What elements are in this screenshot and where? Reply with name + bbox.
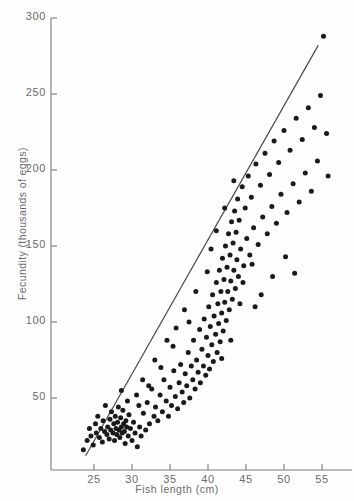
data-point — [258, 183, 263, 188]
data-point — [130, 438, 135, 443]
data-point — [208, 324, 213, 329]
data-point — [87, 426, 92, 431]
data-point — [209, 342, 214, 347]
data-point — [253, 304, 258, 309]
data-point — [217, 268, 222, 273]
data-point — [240, 184, 245, 189]
data-point — [187, 320, 192, 325]
data-point — [161, 377, 166, 382]
data-point — [113, 414, 118, 419]
data-point — [117, 435, 122, 440]
data-point — [303, 171, 308, 176]
data-point — [206, 353, 211, 358]
x-axis-ticks — [94, 464, 322, 470]
data-point — [315, 158, 320, 163]
data-point — [155, 418, 160, 423]
data-point — [94, 430, 99, 435]
data-point — [256, 242, 261, 247]
data-point — [193, 386, 198, 391]
data-point — [263, 151, 268, 156]
data-point — [177, 380, 182, 385]
data-point — [174, 326, 179, 331]
data-point — [197, 327, 202, 332]
data-point — [143, 427, 148, 432]
data-point — [93, 421, 98, 426]
data-point — [285, 210, 290, 215]
data-point — [231, 178, 236, 183]
data-point — [241, 263, 246, 268]
axis-lines — [51, 18, 352, 470]
data-point — [222, 300, 227, 305]
data-point — [223, 244, 228, 249]
data-point — [237, 218, 242, 223]
data-point — [265, 231, 270, 236]
data-point — [326, 174, 331, 179]
data-point — [233, 286, 238, 291]
data-point — [103, 403, 108, 408]
data-point — [140, 377, 145, 382]
data-point — [227, 307, 232, 312]
data-point — [180, 389, 185, 394]
data-point — [209, 247, 214, 252]
data-point — [175, 406, 180, 411]
data-point — [203, 373, 208, 378]
data-point — [126, 434, 131, 439]
data-point — [215, 350, 220, 355]
data-point — [294, 116, 299, 121]
data-point — [198, 380, 203, 385]
data-point — [206, 304, 211, 309]
data-point — [235, 196, 240, 201]
data-point — [135, 444, 140, 449]
data-point — [229, 219, 234, 224]
data-point — [133, 430, 138, 435]
data-point — [201, 364, 206, 369]
data-point — [312, 125, 317, 130]
data-point — [101, 418, 106, 423]
data-point — [196, 370, 201, 375]
data-point — [246, 174, 251, 179]
data-point — [122, 429, 127, 434]
data-point — [164, 338, 169, 343]
data-point — [270, 274, 275, 279]
data-point — [244, 236, 249, 241]
data-point — [291, 181, 296, 186]
data-point — [112, 438, 117, 443]
data-point — [115, 420, 120, 425]
data-point — [136, 403, 141, 408]
data-point — [178, 362, 183, 367]
data-point — [183, 371, 188, 376]
data-point — [247, 253, 252, 258]
data-point — [214, 228, 219, 233]
data-point — [152, 414, 157, 419]
data-point — [202, 316, 207, 321]
y-axis-title: Fecundity (thousands of eggs) — [16, 147, 28, 300]
data-point — [134, 392, 139, 397]
data-point — [222, 206, 227, 211]
data-point — [216, 321, 221, 326]
data-point — [88, 434, 93, 439]
data-point — [119, 388, 124, 393]
data-point — [238, 247, 243, 252]
data-point — [181, 400, 186, 405]
data-point — [204, 335, 209, 340]
data-point — [276, 160, 281, 165]
data-point — [145, 400, 150, 405]
data-point — [234, 230, 239, 235]
data-point — [109, 409, 114, 414]
data-point — [100, 440, 105, 445]
data-point — [250, 262, 255, 267]
data-point — [237, 301, 242, 306]
data-point — [213, 332, 218, 337]
y-tick-label: 300 — [0, 10, 46, 22]
data-point — [249, 195, 254, 200]
data-point — [306, 105, 311, 110]
regression-line — [86, 45, 319, 455]
y-tick-label: 250 — [0, 86, 46, 98]
data-point — [309, 189, 314, 194]
data-point — [173, 394, 178, 399]
data-point — [186, 350, 191, 355]
data-point — [236, 274, 241, 279]
data-point — [104, 432, 109, 437]
data-point — [81, 447, 86, 452]
data-point — [221, 277, 226, 282]
